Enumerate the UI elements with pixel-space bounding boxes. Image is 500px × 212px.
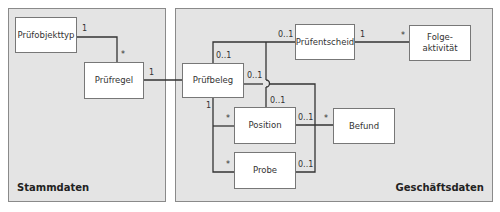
mult-entscheid-folge-src: 1: [360, 30, 365, 39]
mult-regel-src: 1: [149, 68, 154, 77]
mult-befund-left: *: [324, 114, 328, 123]
mult-beleg-right: 0..1: [247, 71, 262, 80]
mult-objekttyp-dst: *: [121, 50, 125, 59]
entity-position: Position: [234, 107, 296, 144]
entity-pruefentscheid: Prüfentscheid: [295, 24, 355, 60]
mult-position-right: 0..1: [298, 113, 313, 122]
entity-probe: Probe: [234, 152, 296, 189]
mult-beleg-entscheid-src: 0..1: [216, 51, 231, 60]
entity-pruefregel: Prüfregel: [84, 62, 144, 99]
entity-befund: Befund: [333, 108, 395, 144]
mult-probe-left: *: [226, 160, 230, 169]
mult-position-top: 0..1: [270, 96, 285, 105]
mult-entscheid-folge-dst: *: [401, 31, 405, 40]
mult-beleg-bottom: 1: [206, 101, 211, 110]
entity-pruefobjekttyp: Prüfobjekttyp: [15, 17, 77, 53]
entity-pruefbeleg: Prüfbeleg: [182, 63, 244, 98]
entity-folgeaktivitaet: Folge- aktivität: [409, 25, 471, 61]
mult-position-left: *: [226, 114, 230, 123]
mult-probe-right: 0..1: [298, 160, 313, 169]
mult-beleg-entscheid-dst: 0..1: [278, 30, 293, 39]
mult-objekttyp-src: 1: [82, 24, 87, 33]
